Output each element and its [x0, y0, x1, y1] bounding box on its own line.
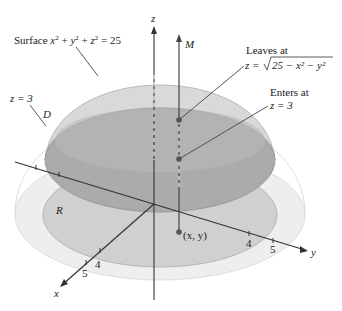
line-M-arrow [176, 34, 182, 42]
point-xy-label: (x, y) [183, 229, 207, 242]
y-axis-label: y [310, 246, 316, 258]
xy-point [176, 229, 182, 235]
y-tick-4-label: 4 [246, 237, 252, 249]
leaves-title: Leaves at [246, 44, 288, 56]
z-axis-label: z [150, 12, 156, 24]
leaves-eq-prefix: z = [244, 59, 259, 71]
region-D-highlight [55, 108, 265, 172]
y-axis-arrow [300, 246, 308, 253]
leader-surface [76, 47, 98, 76]
y-tick-5-label: 5 [270, 243, 276, 255]
region-R-label: R [55, 204, 63, 216]
diagram: Surface x2 + y2 + z2 = 25 z = 3 D R z x … [0, 0, 342, 311]
x-tick-5-label: 5 [82, 267, 88, 279]
line-M-label: M [184, 38, 195, 50]
plane-label: z = 3 [9, 92, 33, 104]
region-D-label: D [42, 108, 51, 120]
z-axis-arrow [151, 26, 157, 34]
surface-label: Surface x2 + y2 + z2 = 25 [14, 34, 122, 46]
x-tick-4-label: 4 [95, 258, 101, 270]
enters-title: Enters at [270, 86, 309, 98]
x-axis-label: x [53, 287, 59, 299]
enters-eq: z = 3 [269, 99, 293, 111]
leaves-eq-radicand: 25 − x² − y² [272, 59, 326, 71]
figure-canvas: Surface x2 + y2 + z2 = 25 z = 3 D R z x … [0, 0, 342, 311]
